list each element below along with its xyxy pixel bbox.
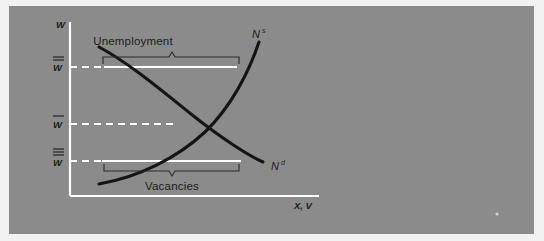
- low-wage-tick-text: W: [53, 157, 63, 168]
- vacancies-annotation-label: Vacancies: [145, 180, 199, 192]
- high-wage-tick-label: W: [53, 57, 64, 73]
- labor-demand-label-superscript: d: [281, 159, 286, 166]
- labor-demand-curve: [99, 47, 263, 162]
- labor-market-diagram: W W W W: [9, 6, 534, 234]
- labor-supply-curve-label: N s: [252, 27, 266, 40]
- labor-demand-label-base: N: [271, 160, 279, 172]
- figure-frame: W W W W: [0, 0, 544, 241]
- plate-speck: [495, 212, 498, 215]
- equilibrium-wage-tick-text: W: [53, 119, 63, 130]
- equilibrium-wage-tick-label: W: [53, 116, 64, 130]
- unemployment-annotation-label: Unemployment: [93, 35, 173, 47]
- labor-supply-label-base: N: [252, 28, 260, 40]
- vacancies-brace: [104, 164, 239, 176]
- y-axis-label: W: [56, 19, 66, 30]
- labor-supply-label-superscript: s: [262, 27, 266, 34]
- labor-demand-curve-label: N d: [271, 159, 286, 172]
- x-axis-label: X, V: [293, 200, 313, 211]
- figure-plate: W W W W: [9, 6, 534, 234]
- low-wage-tick-label: W: [53, 149, 64, 168]
- figure-screenshot: W W W W: [0, 0, 544, 241]
- high-wage-tick-text: W: [53, 62, 63, 73]
